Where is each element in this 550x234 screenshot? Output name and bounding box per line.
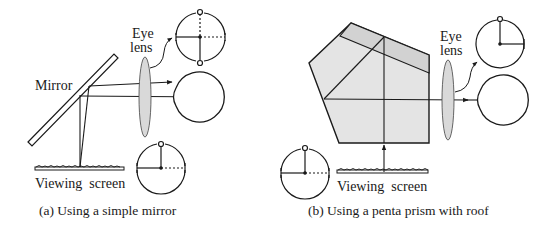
viewing-screen-b <box>337 169 428 174</box>
viewing-screen-label-b: Viewing screen <box>337 180 427 194</box>
eye-lens-label-b-line2: lens <box>440 44 463 58</box>
viewing-screen-label-a: Viewing screen <box>35 177 125 191</box>
eye-b <box>478 75 529 125</box>
pointer-arrow-b <box>455 62 477 92</box>
caption-a: (a) Using a simple mirror <box>39 204 176 218</box>
mirror-label: Mirror <box>35 79 72 93</box>
caption-b: (b) Using a penta prism with roof <box>308 204 489 218</box>
reticle-bottom-a <box>137 142 185 195</box>
pointer-arrow-a <box>150 38 172 68</box>
eye-lens-label-a-line1: Eye <box>132 27 154 41</box>
eye-lens-label-a-line2: lens <box>130 41 153 55</box>
eye-lens-label-b-line1: Eye <box>440 30 462 44</box>
optics-diagram <box>0 0 550 234</box>
panel-a-simple-mirror <box>28 10 225 195</box>
eye-lens-a <box>139 57 151 137</box>
eye-a <box>174 72 225 122</box>
reticle-bottom-b <box>281 146 329 200</box>
viewing-screen-a <box>35 166 124 171</box>
reticle-top-a <box>176 10 225 66</box>
panel-b-penta-prism <box>281 17 528 200</box>
reticle-top-b <box>476 17 524 68</box>
eye-lens-b <box>442 60 454 140</box>
mirror <box>28 54 118 146</box>
